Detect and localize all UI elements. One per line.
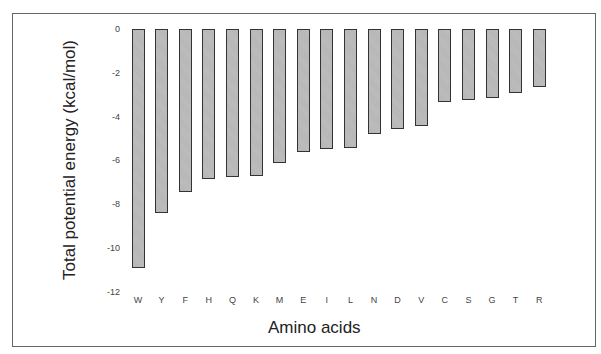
y-tick-label: -10 <box>90 243 120 253</box>
x-tick-label: S <box>458 295 478 305</box>
bar-V <box>415 29 428 126</box>
x-tick-label: D <box>388 295 408 305</box>
y-tick-label: -12 <box>90 287 120 297</box>
x-tick-label: V <box>411 295 431 305</box>
bar-I <box>320 29 333 149</box>
x-tick-label: E <box>293 295 313 305</box>
bar-M <box>273 29 286 163</box>
x-tick-label: Y <box>152 295 172 305</box>
bar-S <box>462 29 475 100</box>
y-tick-label: 0 <box>90 24 120 34</box>
x-tick-label: Q <box>222 295 242 305</box>
x-tick-label: M <box>270 295 290 305</box>
x-tick-label: F <box>175 295 195 305</box>
x-tick-label: C <box>435 295 455 305</box>
bar-L <box>344 29 357 148</box>
y-tick-label: -4 <box>90 112 120 122</box>
x-axis-label: Amino acids <box>268 318 361 338</box>
x-tick-label: R <box>529 295 549 305</box>
bar-R <box>533 29 546 87</box>
bar-H <box>202 29 215 179</box>
x-tick-label: I <box>317 295 337 305</box>
x-tick-label: H <box>199 295 219 305</box>
bar-E <box>297 29 310 152</box>
bar-C <box>438 29 451 102</box>
bar-W <box>132 29 145 268</box>
y-axis-label: Total potential energy (kcal/mol) <box>60 40 80 280</box>
bar-K <box>250 29 263 176</box>
x-tick-label: L <box>340 295 360 305</box>
bar-G <box>486 29 499 98</box>
x-tick-label: G <box>482 295 502 305</box>
y-tick-label: -2 <box>90 68 120 78</box>
y-tick-label: -6 <box>90 155 120 165</box>
bar-Y <box>155 29 168 213</box>
y-tick-label: -8 <box>90 199 120 209</box>
x-tick-label: K <box>246 295 266 305</box>
bar-Q <box>226 29 239 177</box>
bar-T <box>509 29 522 93</box>
bar-D <box>391 29 404 129</box>
bar-F <box>179 29 192 192</box>
x-tick-label: W <box>128 295 148 305</box>
x-tick-label: N <box>364 295 384 305</box>
bar-N <box>368 29 381 134</box>
x-tick-label: T <box>506 295 526 305</box>
